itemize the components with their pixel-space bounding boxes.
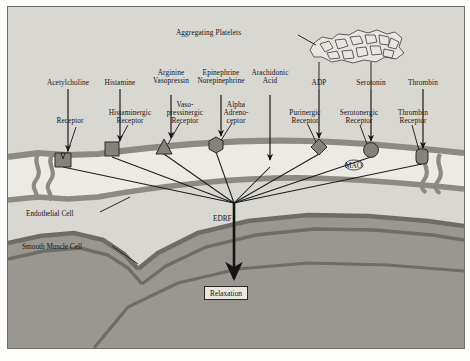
receptor-shape-square bbox=[105, 142, 119, 156]
receptor-label-alpha-adrenoceptor: AlphaAdreno-ceptor bbox=[208, 101, 264, 126]
platelets-label: Aggregating Platelets bbox=[176, 29, 300, 37]
smooth-muscle-cell-body bbox=[8, 215, 464, 348]
smooth-muscle-cell-label: Smooth Muscle Cell bbox=[22, 242, 82, 251]
receptor-label-thrombin: ThrombinReceptor bbox=[382, 109, 444, 125]
receptor-shape-circle bbox=[364, 143, 379, 158]
receptor-shape-hexagon bbox=[209, 137, 223, 153]
agonist-label-thrombin: Thrombin bbox=[393, 79, 453, 87]
edrf-label: EDRF bbox=[213, 214, 232, 223]
figure-frame: Aggregating Platelets Acetylcholine Hist… bbox=[7, 6, 465, 349]
figure-canvas: Aggregating Platelets Acetylcholine Hist… bbox=[0, 0, 470, 361]
mao-label: MAO bbox=[345, 161, 362, 170]
endothelial-cell-label: Endothelial Cell bbox=[26, 209, 74, 218]
receptor-shape-rounded-rect bbox=[416, 149, 428, 164]
receptor-label-vasopressinergic: Vaso-pressinergicReceptor bbox=[154, 101, 216, 126]
relaxation-box: Relaxation bbox=[204, 286, 248, 300]
agonist-label-adp: ADP bbox=[295, 79, 343, 87]
receptor-label-receptor: Receptor bbox=[40, 117, 100, 125]
